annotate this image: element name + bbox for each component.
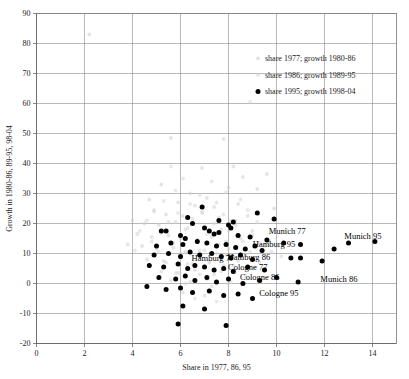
data-point [169,136,173,140]
data-point [202,307,207,312]
data-point [183,274,188,279]
data-point [288,256,293,261]
data-point [272,207,276,211]
y-tick-label: 30 [23,189,31,198]
data-point [176,201,180,205]
point-annotation: Cologne 86 [240,272,279,282]
data-point [248,100,252,104]
y-tick-label: 10 [23,249,31,258]
data-point [176,262,181,267]
data-point [224,323,229,328]
data-point [198,193,202,197]
data-point [241,240,245,244]
data-point [210,180,214,184]
data-point [157,223,161,227]
data-point [216,218,221,223]
data-point [270,250,274,254]
data-point [226,277,231,282]
data-point [183,282,187,286]
data-point [185,266,190,271]
data-point [164,261,168,265]
data-point [173,277,178,282]
data-point [126,243,130,247]
data-point [214,280,219,285]
data-point [246,208,250,212]
data-point [135,232,139,236]
x-tick-label: 12 [321,349,329,358]
scatter-chart: -20-10010203040506070809002468101214 Mun… [0,0,409,379]
data-point [150,235,154,239]
point-annotation: Hamburg 86 [228,252,271,262]
y-tick-label: 70 [23,69,31,78]
x-tick-label: 6 [179,349,183,358]
data-point [207,229,212,234]
point-annotation: Cologne 77 [228,262,267,272]
plot-border [37,14,397,344]
data-point [185,215,190,220]
data-point [147,263,152,268]
y-tick-label: 90 [23,9,31,18]
data-point [166,251,171,256]
data-point [171,246,175,250]
data-point [346,241,351,246]
x-tick-label: 2 [83,349,87,358]
data-point [159,270,163,274]
data-point [157,250,161,254]
data-point [224,190,228,194]
data-point [222,137,226,141]
x-tick-label: 0 [35,349,39,358]
data-point [212,222,216,226]
data-point [215,201,219,205]
legend-marker [256,89,261,94]
data-point [162,199,166,203]
data-point [167,234,171,238]
data-point [183,236,188,241]
data-point [198,273,202,277]
x-tick-label: 8 [227,349,231,358]
y-tick-label: 60 [23,99,31,108]
data-point [164,229,169,234]
data-point [174,271,178,275]
data-point [164,287,169,292]
data-point [145,258,149,262]
y-tick-label: 20 [23,219,31,228]
x-tick-label: 4 [131,349,135,358]
data-point [255,187,259,191]
data-point [272,217,277,222]
y-axis-title: Growth in 1980-86, 89-95, 98-04 [5,125,14,232]
data-point [205,196,209,200]
data-point [143,222,147,226]
data-point [167,220,171,224]
data-point [169,279,173,283]
data-point [279,255,283,259]
data-point [176,322,181,327]
data-point [181,177,185,181]
axis-titles: Share in 1977, 86, 95Growth in 1980-86, … [5,125,251,372]
data-point [138,229,142,233]
data-point [215,300,219,304]
data-point [221,293,226,298]
data-point [212,273,216,277]
data-point [131,219,135,223]
data-point [174,220,178,224]
data-point [190,221,195,226]
data-point [265,172,269,176]
data-point [183,250,187,254]
legend-label: share 1995; growth 1998-04 [265,87,355,96]
data-point [193,297,197,301]
data-point [255,211,260,216]
data-point [255,220,259,224]
data-point [159,229,164,234]
tick-marks [33,14,373,348]
data-point [222,213,226,217]
data-point [181,291,185,295]
data-point [156,275,161,280]
data-point [168,241,173,246]
data-point [233,245,238,250]
data-point [193,204,197,208]
annotations-layer: Munich 77Munich 95Hamburg 95Hamburg 77Ha… [192,226,382,298]
data-point [227,247,231,251]
data-point [195,239,200,244]
legend-marker [256,73,260,77]
data-point [228,226,233,231]
